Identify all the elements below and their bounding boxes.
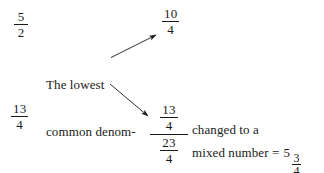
fraction-original-second-denominator: 4 — [14, 117, 25, 131]
result-fraction-denominator: 4 — [292, 165, 300, 173]
result-whole-part: 5 — [283, 145, 290, 160]
annotation-text-block: The lowest common denom- nator is 4 — [46, 46, 136, 173]
fraction-addend-second-denominator: 4 — [164, 118, 175, 132]
fraction-converted-first-numerator: 10 — [162, 7, 179, 21]
result-fraction-part: 3 4 — [292, 152, 301, 173]
fraction-addend-second: 13 4 — [160, 103, 177, 132]
fraction-sum: 23 4 — [160, 136, 177, 165]
annotation-line-3: nator is 4 — [46, 170, 136, 173]
annotation-line-1: The lowest — [46, 77, 136, 93]
fraction-original-first: 5 2 — [14, 10, 28, 39]
annotation-line-2: common denom- — [46, 124, 136, 140]
result-fraction-numerator: 3 — [292, 152, 300, 164]
math-diagram-canvas: 5 2 13 4 10 4 The lowest common denom- n… — [0, 0, 324, 173]
fraction-sum-denominator: 4 — [164, 151, 175, 165]
result-mixed-number-text: mixed number = — [192, 145, 279, 160]
result-changed-to-text: changed to a — [192, 122, 259, 137]
fraction-sum-numerator: 23 — [160, 136, 177, 150]
result-mixed-number-line: mixed number =5 3 4 — [192, 145, 301, 173]
fraction-addend-second-numerator: 13 — [160, 103, 177, 117]
addition-column: 13 4 23 4 — [150, 103, 188, 165]
fraction-converted-first-denominator: 4 — [165, 22, 176, 36]
fraction-original-second: 13 4 — [11, 102, 28, 131]
fraction-original-first-denominator: 2 — [16, 25, 27, 39]
fraction-original-first-numerator: 5 — [16, 10, 27, 24]
fraction-converted-first: 10 4 — [162, 7, 179, 36]
fraction-original-second-numerator: 13 — [11, 102, 28, 116]
